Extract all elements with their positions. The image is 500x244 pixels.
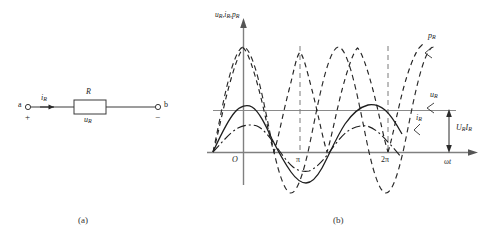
terminal-a-node <box>25 104 30 109</box>
voltage-u-r-sub: R <box>88 118 92 124</box>
current-curve-label-sub: R <box>418 116 422 122</box>
current-curve-label: iR <box>416 113 422 122</box>
origin-label: O <box>232 155 238 164</box>
voltage-u-r-label: uR <box>84 115 92 124</box>
circuit-panel <box>25 100 160 114</box>
voltage-curve-label-sub: R <box>434 93 438 99</box>
y-axis-part-p-sub: R <box>236 13 240 19</box>
x-axis-arrowhead <box>468 149 478 156</box>
waveform-panel <box>207 18 478 193</box>
voltage-label-leader <box>427 103 434 113</box>
terminal-a-label: a <box>18 100 22 109</box>
terminal-b-node <box>155 104 160 109</box>
current-arrow-icon <box>40 105 54 110</box>
current-i-r-label: iR <box>41 93 47 102</box>
polarity-minus-label: − <box>155 112 160 122</box>
power-curve-p-r <box>213 47 434 193</box>
mean-power-label: URIR <box>456 123 472 132</box>
x-tick-pi-label: π <box>296 155 300 164</box>
power-curve-p-r-tail2 <box>419 42 425 48</box>
x-axis-label-t: t <box>449 157 451 166</box>
current-i-r-sub: R <box>43 96 47 102</box>
terminal-b-label: b <box>164 100 168 109</box>
figure-svg <box>0 0 500 244</box>
mean-power-measure-arrow <box>446 109 452 153</box>
mean-power-i-sub: R <box>468 126 472 132</box>
y-axis-label: uR,iR,pR <box>215 10 239 19</box>
resistor-box <box>74 100 106 114</box>
caption-a: (a) <box>78 215 88 225</box>
power-curve-label: pR <box>428 31 436 40</box>
polarity-plus-label: + <box>25 112 30 122</box>
current-curve-i-r <box>213 125 401 171</box>
x-tick-two-pi-label: 2π <box>381 155 389 164</box>
y-axis-arrowhead <box>240 18 247 28</box>
figure-container: a b + − iR R uR uR,iR,pR O π 2π ωt pR uR… <box>0 0 500 244</box>
power-curve-label-sub: R <box>432 34 436 40</box>
resistor-r-label: R <box>86 87 91 96</box>
caption-b: (b) <box>333 215 344 225</box>
voltage-curve-label: uR <box>430 90 438 99</box>
x-axis-label: ωt <box>444 157 451 166</box>
current-label-leader <box>414 124 420 135</box>
